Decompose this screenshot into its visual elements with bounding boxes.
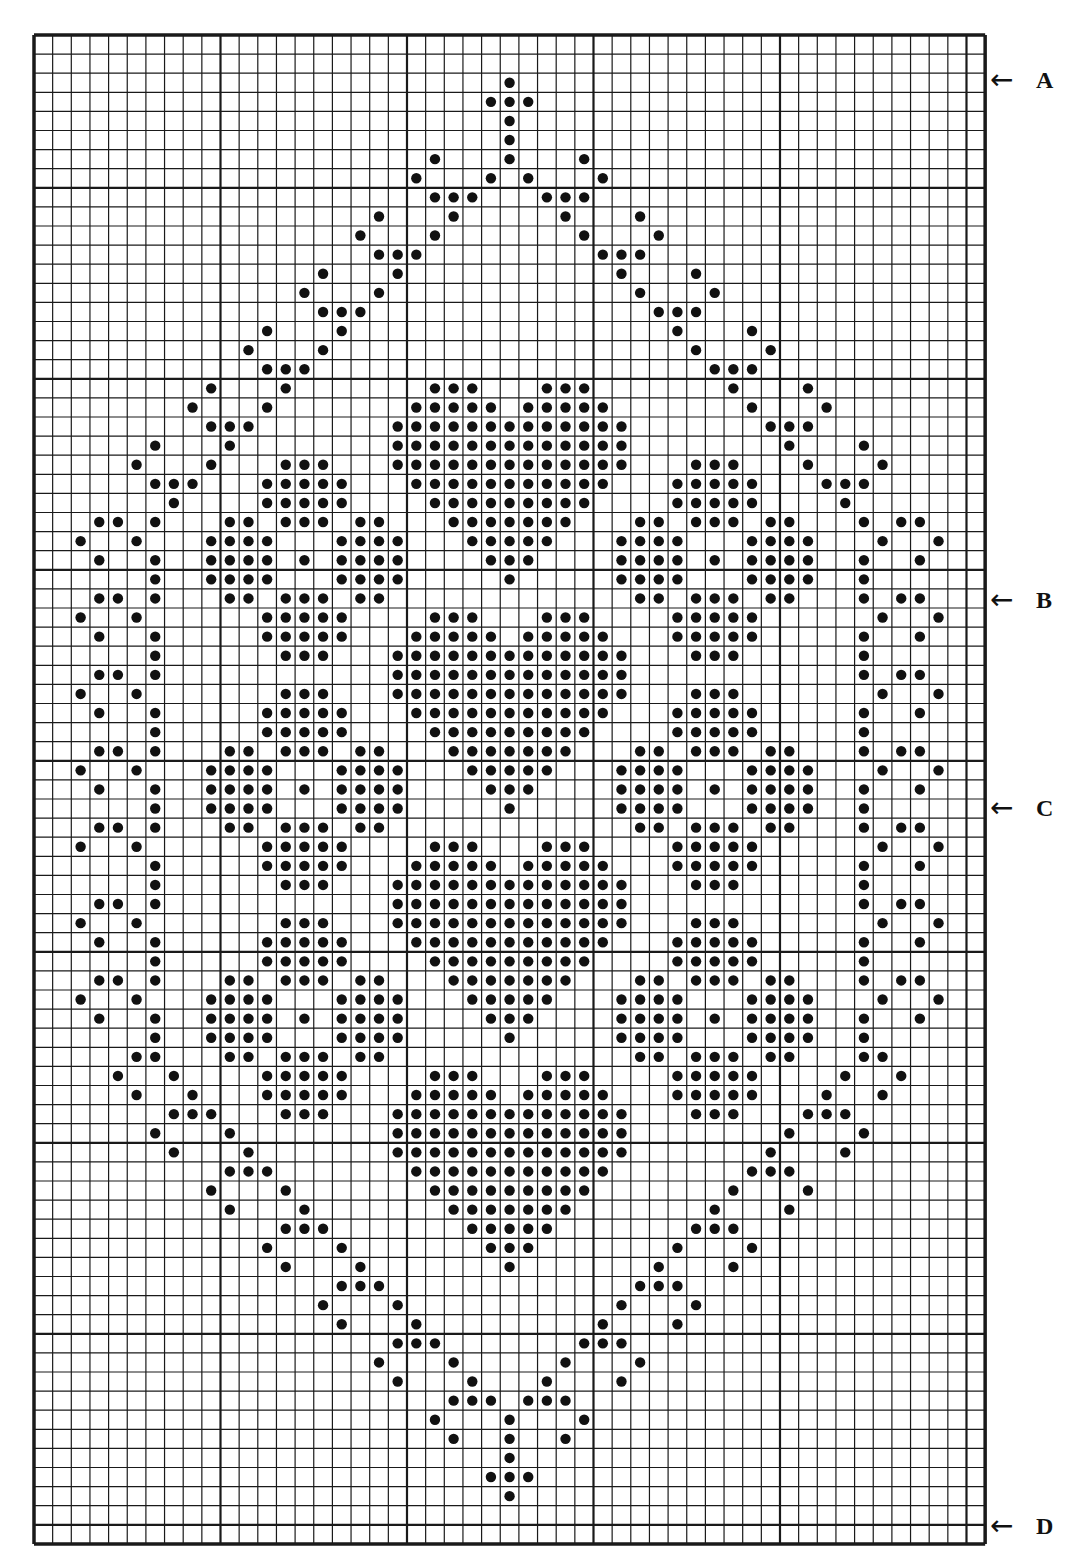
stitch-dot <box>355 230 365 240</box>
stitch-dot <box>299 612 309 622</box>
stitch-dot <box>523 975 533 985</box>
stitch-dot <box>691 1071 701 1081</box>
stitch-dot <box>355 803 365 813</box>
stitch-dot <box>523 631 533 641</box>
stitch-dot <box>728 1052 738 1062</box>
stitch-dot <box>243 765 253 775</box>
stitch-dot <box>598 689 608 699</box>
stitch-dot <box>467 1376 477 1386</box>
stitch-dot <box>691 689 701 699</box>
stitch-dot <box>859 1128 869 1138</box>
stitch-dot <box>616 1109 626 1119</box>
stitch-dot <box>579 708 589 718</box>
stitch-dot <box>243 536 253 546</box>
stitch-dot <box>411 937 421 947</box>
stitch-dot <box>523 421 533 431</box>
stitch-dot <box>318 727 328 737</box>
stitch-dot <box>691 1300 701 1310</box>
stitch-dot <box>710 479 720 489</box>
arrow-left-icon: ← <box>990 66 1030 94</box>
stitch-dot <box>355 784 365 794</box>
stitch-dot <box>598 937 608 947</box>
stitch-dot <box>318 479 328 489</box>
stitch-dot <box>859 517 869 527</box>
stitch-dot <box>94 822 104 832</box>
stitch-dot <box>915 784 925 794</box>
stitch-dot <box>486 975 496 985</box>
row-marker-d: ← D <box>990 1511 1053 1541</box>
stitch-dot <box>747 1243 757 1253</box>
stitch-dot <box>448 899 458 909</box>
stitch-dot <box>542 1166 552 1176</box>
stitch-dot <box>150 708 160 718</box>
stitch-dot <box>150 784 160 794</box>
stitch-dot <box>579 192 589 202</box>
stitch-dot <box>635 784 645 794</box>
stitch-dot <box>281 498 291 508</box>
stitch-dot <box>467 861 477 871</box>
stitch-dot <box>504 154 514 164</box>
stitch-dot <box>672 612 682 622</box>
stitch-dot <box>654 230 664 240</box>
stitch-dot <box>262 612 272 622</box>
stitch-dot <box>560 937 570 947</box>
stitch-dot <box>523 97 533 107</box>
stitch-dot <box>728 498 738 508</box>
stitch-dot <box>616 1033 626 1043</box>
stitch-dot <box>94 517 104 527</box>
stitch-dot <box>672 1013 682 1023</box>
stitch-dot <box>262 1166 272 1176</box>
stitch-dot <box>467 631 477 641</box>
stitch-dot <box>318 612 328 622</box>
stitch-dot <box>616 918 626 928</box>
stitch-dot <box>467 479 477 489</box>
stitch-dot <box>299 842 309 852</box>
stitch-dot <box>262 727 272 737</box>
stitch-dot <box>765 1013 775 1023</box>
stitch-dot <box>542 975 552 985</box>
stitch-dot <box>616 1013 626 1023</box>
stitch-dot <box>430 651 440 661</box>
stitch-dot <box>654 746 664 756</box>
stitch-dot <box>374 574 384 584</box>
stitch-dot <box>355 822 365 832</box>
stitch-dot <box>486 765 496 775</box>
stitch-dot <box>411 899 421 909</box>
stitch-dot <box>243 1052 253 1062</box>
stitch-dot <box>859 593 869 603</box>
stitch-dot <box>598 1090 608 1100</box>
stitch-dot <box>877 918 887 928</box>
stitch-dot <box>765 1147 775 1157</box>
stitch-dot <box>430 154 440 164</box>
stitch-dot <box>281 479 291 489</box>
stitch-dot <box>206 1013 216 1023</box>
stitch-dot <box>933 536 943 546</box>
stitch-dot <box>187 1109 197 1119</box>
stitch-dot <box>150 746 160 756</box>
stitch-dot <box>131 765 141 775</box>
stitch-dot <box>392 1300 402 1310</box>
stitch-dot <box>225 1013 235 1023</box>
stitch-dot <box>542 1071 552 1081</box>
stitch-dot <box>710 517 720 527</box>
stitch-dot <box>616 1147 626 1157</box>
stitch-dot <box>784 784 794 794</box>
stitch-dot <box>467 1090 477 1100</box>
stitch-dot <box>411 460 421 470</box>
stitch-dot <box>542 727 552 737</box>
stitch-dot <box>728 1071 738 1081</box>
stitch-dot <box>374 784 384 794</box>
stitch-dot <box>392 651 402 661</box>
stitch-dot <box>765 517 775 527</box>
stitch-dot <box>542 612 552 622</box>
stitch-dot <box>281 1109 291 1119</box>
stitch-dot <box>243 574 253 584</box>
stitch-dot <box>579 651 589 661</box>
stitch-dot <box>299 1071 309 1081</box>
stitch-dot <box>560 1204 570 1214</box>
stitch-dot <box>262 803 272 813</box>
stitch-dot <box>299 880 309 890</box>
stitch-dot <box>560 1357 570 1367</box>
stitch-dot <box>896 517 906 527</box>
stitch-dot <box>467 956 477 966</box>
